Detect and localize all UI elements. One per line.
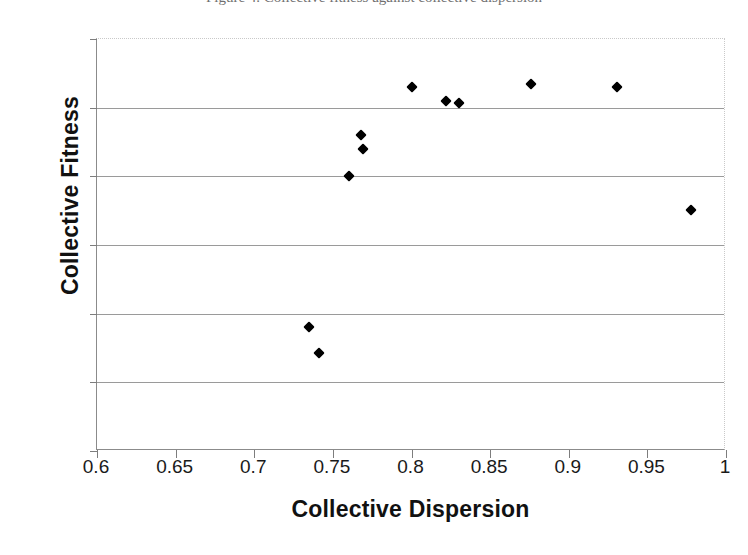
x-axis-tick-label: 1 bbox=[685, 456, 748, 478]
x-axis-title: Collective Dispersion bbox=[96, 496, 725, 523]
gridline-y bbox=[97, 245, 724, 246]
data-point bbox=[612, 81, 623, 92]
x-axis-tick-label: 0.65 bbox=[135, 456, 215, 478]
data-point bbox=[357, 143, 368, 154]
y-axis-tick bbox=[90, 176, 97, 177]
x-axis-tick-label: 0.6 bbox=[56, 456, 136, 478]
x-axis-tick-label: 0.9 bbox=[528, 456, 608, 478]
x-axis-tick-label: 0.85 bbox=[449, 456, 529, 478]
y-axis-tick bbox=[90, 245, 97, 246]
data-point bbox=[406, 81, 417, 92]
y-axis-tick bbox=[90, 382, 97, 383]
y-axis-tick bbox=[90, 314, 97, 315]
x-axis-tick-label: 0.7 bbox=[213, 456, 293, 478]
gridline-y bbox=[97, 108, 724, 109]
data-point bbox=[356, 129, 367, 140]
gridline-y bbox=[97, 382, 724, 383]
data-point bbox=[304, 321, 315, 332]
y-axis-tick bbox=[90, 39, 97, 40]
y-axis-tick bbox=[90, 451, 97, 452]
x-axis-tick-label: 0.75 bbox=[292, 456, 372, 478]
x-axis-tick-label: 0.95 bbox=[606, 456, 686, 478]
data-point bbox=[440, 96, 451, 107]
data-point bbox=[686, 204, 697, 215]
gridline-y bbox=[97, 176, 724, 177]
scatter-chart-figure: Collective Fitness Collective Dispersion… bbox=[0, 0, 748, 555]
y-axis-title: Collective Fitness bbox=[57, 0, 84, 396]
y-axis-tick bbox=[90, 108, 97, 109]
data-point bbox=[313, 348, 324, 359]
data-point bbox=[525, 79, 536, 90]
plot-area bbox=[96, 38, 725, 450]
gridline-y bbox=[97, 314, 724, 315]
x-axis-tick-label: 0.8 bbox=[371, 456, 451, 478]
data-point bbox=[343, 171, 354, 182]
